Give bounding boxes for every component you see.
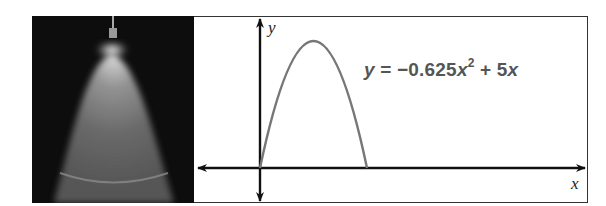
equation-linear-coefficient: 5 xyxy=(497,59,508,80)
x-axis-label: x xyxy=(571,174,579,194)
y-axis-label: y xyxy=(268,18,276,38)
parabola-curve xyxy=(260,41,367,168)
parabola-graph xyxy=(0,0,606,206)
equation-var: x xyxy=(457,59,468,80)
equation-var-linear: x xyxy=(508,59,519,80)
equation-lhs: y xyxy=(364,59,375,80)
equation-plus: + xyxy=(480,59,491,80)
equation-equals: = xyxy=(380,59,391,80)
equation-exponent: 2 xyxy=(468,56,475,70)
equation-coefficient: −0.625 xyxy=(397,59,457,80)
equation-label: y = −0.625x2 + 5x xyxy=(364,58,518,81)
